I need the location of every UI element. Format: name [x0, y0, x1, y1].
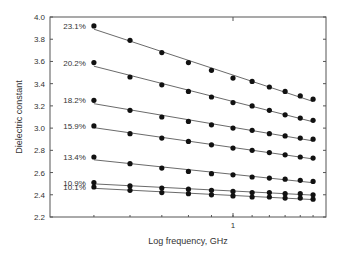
- data-point: [310, 179, 315, 184]
- data-point: [250, 174, 255, 179]
- data-point: [127, 183, 132, 188]
- fit-line: [94, 66, 313, 122]
- y-tick-label: 2.8: [34, 146, 46, 155]
- data-point: [209, 171, 214, 176]
- fit-line: [94, 188, 313, 199]
- y-tick-label: 3.8: [34, 35, 46, 44]
- data-point: [91, 180, 96, 185]
- data-point: [283, 196, 288, 201]
- data-point: [127, 131, 132, 136]
- data-point: [159, 166, 164, 171]
- data-point: [298, 191, 303, 196]
- data-point: [91, 23, 96, 28]
- data-point: [186, 139, 191, 144]
- data-point: [159, 114, 164, 119]
- data-point: [250, 128, 255, 133]
- data-point: [267, 194, 272, 199]
- data-point: [267, 190, 272, 195]
- data-point: [91, 154, 96, 159]
- data-point: [186, 187, 191, 192]
- data-point: [127, 188, 132, 193]
- series-label: 15.9%: [63, 122, 86, 131]
- y-tick-label: 4.0: [34, 13, 46, 22]
- data-point: [159, 136, 164, 141]
- data-point: [267, 108, 272, 113]
- fit-line: [94, 104, 313, 141]
- data-point: [310, 137, 315, 142]
- y-tick-label: 3.2: [34, 102, 46, 111]
- data-point: [283, 133, 288, 138]
- dielectric-chart: 2.22.42.62.83.03.23.43.63.84.0 1 23.1%20…: [0, 0, 344, 261]
- data-point: [250, 103, 255, 108]
- data-series: 13.4%: [63, 153, 315, 184]
- data-point: [91, 123, 96, 128]
- data-point: [230, 193, 235, 198]
- data-point: [159, 186, 164, 191]
- data-point: [209, 94, 214, 99]
- data-point: [209, 142, 214, 147]
- y-tick-label: 3.4: [34, 80, 46, 89]
- data-point: [298, 116, 303, 121]
- data-point: [310, 156, 315, 161]
- y-tick-label: 2.6: [34, 169, 46, 178]
- data-point: [230, 100, 235, 105]
- data-point: [310, 192, 315, 197]
- fit-line: [94, 128, 313, 159]
- series-label: 20.2%: [63, 59, 86, 68]
- data-point: [283, 177, 288, 182]
- data-point: [209, 68, 214, 73]
- data-point: [186, 191, 191, 196]
- data-point: [209, 122, 214, 127]
- data-point: [283, 112, 288, 117]
- data-point: [91, 98, 96, 103]
- y-tick-label: 2.4: [34, 191, 46, 200]
- data-point: [283, 89, 288, 94]
- data-point: [127, 74, 132, 79]
- data-point: [186, 60, 191, 65]
- y-tick-label: 3.6: [34, 57, 46, 66]
- data-point: [159, 50, 164, 55]
- data-point: [267, 131, 272, 136]
- series-label: 10.1%: [63, 183, 86, 192]
- data-point: [127, 161, 132, 166]
- data-series: 15.9%: [63, 122, 315, 161]
- series-label: 13.4%: [63, 153, 86, 162]
- data-point: [298, 178, 303, 183]
- data-series: 20.2%: [63, 59, 315, 123]
- data-point: [230, 76, 235, 81]
- data-point: [127, 38, 132, 43]
- data-point: [283, 152, 288, 157]
- data-point: [127, 108, 132, 113]
- fit-line: [94, 184, 313, 195]
- data-point: [298, 136, 303, 141]
- data-point: [230, 189, 235, 194]
- fit-line: [94, 29, 313, 101]
- data-point: [283, 191, 288, 196]
- data-point: [310, 97, 315, 102]
- data-point: [250, 79, 255, 84]
- fit-line: [94, 160, 313, 183]
- data-point: [209, 188, 214, 193]
- data-point: [267, 84, 272, 89]
- data-point: [209, 192, 214, 197]
- data-point: [310, 118, 315, 123]
- data-point: [230, 146, 235, 151]
- x-axis-title: Log frequency, GHz: [148, 236, 228, 246]
- data-point: [230, 126, 235, 131]
- data-point: [250, 148, 255, 153]
- data-point: [298, 196, 303, 201]
- data-point: [159, 82, 164, 87]
- data-point: [310, 197, 315, 202]
- data-point: [250, 194, 255, 199]
- data-point: [267, 150, 272, 155]
- data-point: [298, 93, 303, 98]
- y-tick-label: 3.0: [34, 124, 46, 133]
- data-point: [186, 169, 191, 174]
- series-group: 23.1%20.2%18.2%15.9%13.4%10.9%10.1%: [63, 22, 315, 202]
- series-label: 18.2%: [63, 96, 86, 105]
- data-point: [186, 119, 191, 124]
- data-point: [91, 184, 96, 189]
- series-label: 23.1%: [63, 22, 86, 31]
- data-series: 10.1%: [63, 183, 315, 202]
- data-point: [159, 190, 164, 195]
